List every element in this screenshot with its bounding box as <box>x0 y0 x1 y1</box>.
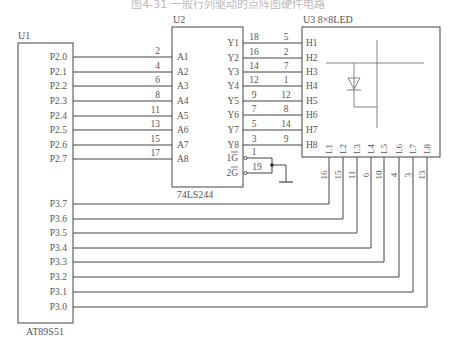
pin-label-l1: L1 <box>324 144 334 154</box>
pin-label-p3-2: P3.2 <box>50 272 67 282</box>
pin-label-l7: L7 <box>408 144 418 154</box>
pin-label-p3-7: P3.7 <box>50 199 67 209</box>
pin-label-h4: H4 <box>306 81 318 91</box>
pin-number: 4 <box>389 172 399 177</box>
pin-label-p2-0: P2.0 <box>50 52 67 62</box>
pin-number: 17 <box>151 148 161 158</box>
figure-caption: 图4-31 一般行列驱动的点阵图硬件电路 <box>131 0 324 11</box>
pin-label-l4: L4 <box>366 144 376 154</box>
pin-label-h5: H5 <box>306 96 318 106</box>
pin-label-p2-7: P2.7 <box>50 154 67 164</box>
pin-label-y3: Y3 <box>227 67 239 77</box>
pin-number: 9 <box>284 134 289 144</box>
pin-label-l6: L6 <box>394 144 404 154</box>
pin-label-a6: A6 <box>177 125 189 135</box>
pin-number: 12 <box>281 90 291 100</box>
pin-number: 1 <box>284 75 289 85</box>
pin-label-h3: H3 <box>306 67 318 77</box>
pin-label-a5: A5 <box>177 111 189 121</box>
pin-label-2g: 2G <box>226 168 238 178</box>
pin-label-y4: Y4 <box>227 81 239 91</box>
u2-a-pin-numbers: 2 4 6 8 11 13 15 17 <box>151 46 161 158</box>
pin-label-p2-1: P2.1 <box>50 67 67 77</box>
pin-number: 16 <box>319 170 329 180</box>
pin-label-a1: A1 <box>177 52 189 62</box>
pin-label-p2-2: P2.2 <box>50 81 67 91</box>
pin-number: 1 <box>252 147 257 157</box>
pin-number: 3 <box>252 134 257 144</box>
pin-label-p3-6: P3.6 <box>50 214 67 224</box>
pin-number: 6 <box>361 172 371 177</box>
pin-label-h6: H6 <box>306 110 318 120</box>
u3-ref-label: U3 8×8LED <box>303 14 353 25</box>
u1-p2-pin-labels: P2.0 P2.1 P2.2 P2.3 P2.4 P2.5 P2.6 P2.7 <box>50 52 67 164</box>
pin-number: 16 <box>249 47 259 57</box>
u1-part-label: AT89S51 <box>26 326 64 337</box>
schematic-canvas: 图4-31 一般行列驱动的点阵图硬件电路 U1 AT89S51 P2.0 P2.… <box>0 0 457 348</box>
u2-part-label: 74LS244 <box>177 189 214 200</box>
pin-label-p3-4: P3.4 <box>50 243 67 253</box>
pin-number: 13 <box>417 170 427 180</box>
pin-label-p3-3: P3.3 <box>50 257 67 267</box>
pin-label-p3-1: P3.1 <box>50 287 67 297</box>
pin-label-a7: A7 <box>177 140 189 150</box>
pin-label-a4: A4 <box>177 96 189 106</box>
pin-label-l5: L5 <box>379 144 389 154</box>
pin-number: 2 <box>155 46 160 56</box>
pin-label-h2: H2 <box>306 53 318 63</box>
led-diode-icon <box>326 40 424 128</box>
pin-number: 7 <box>284 61 289 71</box>
pin-number: 18 <box>249 32 259 42</box>
u1-p3-pin-labels: P3.7 P3.6 P3.5 P3.4 P3.3 P3.2 P3.1 P3.0 <box>50 199 67 312</box>
pin-number: 11 <box>151 105 160 115</box>
pin-number: 6 <box>155 75 160 85</box>
u3-body <box>302 27 440 157</box>
pin-label-p2-3: P2.3 <box>50 96 67 106</box>
pin-label-y5: Y5 <box>227 96 239 106</box>
pin-label-p3-5: P3.5 <box>50 228 67 238</box>
pin-label-h8: H8 <box>306 140 318 150</box>
pin-label-l8: L8 <box>422 144 432 154</box>
pin-label-a8: A8 <box>177 154 189 164</box>
pin-number: 15 <box>333 170 343 180</box>
pin-label-y2: Y2 <box>227 53 239 63</box>
u3-l-pin-labels: L1 L2 L3 L4 L5 L6 L7 L8 <box>324 144 432 154</box>
u2-ref-label: U2 <box>173 14 185 25</box>
pin-number: 8 <box>284 104 289 114</box>
u2-a-pin-labels: A1 A2 A3 A4 A5 A6 A7 A8 <box>177 52 189 164</box>
enable-ground-network <box>244 156 293 182</box>
inversion-bubble-1g <box>244 156 247 159</box>
inversion-bubble-2g <box>244 171 247 174</box>
pin-label-h7: H7 <box>306 125 318 135</box>
pin-number: 10 <box>374 170 384 180</box>
pin-number: 5 <box>252 119 257 129</box>
pin-label-1g: 1G <box>226 153 238 163</box>
pin-label-y8: Y8 <box>227 140 239 150</box>
pin-number: 14 <box>281 119 291 129</box>
pin-number: 12 <box>249 75 259 85</box>
u3-h-pin-numbers: 5 2 7 1 12 8 14 9 <box>281 32 291 144</box>
pin-number: 2 <box>284 47 289 57</box>
pin-label-l2: L2 <box>338 144 348 154</box>
u2-y-pin-numbers: 18 16 14 12 9 7 5 3 <box>249 32 259 144</box>
u3-l-pin-numbers: 16 15 11 6 10 4 3 13 <box>319 170 427 180</box>
u2-y-pin-labels: Y1 Y2 Y3 Y4 Y5 Y6 Y7 Y8 <box>227 38 239 150</box>
pin-label-l3: L3 <box>352 144 362 154</box>
u3-h-pin-labels: H1 H2 H3 H4 H5 H6 H7 H8 <box>306 38 318 150</box>
pin-label-p3-0: P3.0 <box>50 302 67 312</box>
pin-number: 4 <box>155 61 160 71</box>
u1-ref-label: U1 <box>18 30 30 41</box>
pin-label-p2-6: P2.6 <box>50 140 67 150</box>
pin-label-y1: Y1 <box>227 38 239 48</box>
pin-number: 14 <box>249 61 259 71</box>
pin-label-a3: A3 <box>177 81 189 91</box>
pin-label-y7: Y7 <box>227 125 239 135</box>
pin-label-p2-5: P2.5 <box>50 125 67 135</box>
pin-label-p2-4: P2.4 <box>50 111 67 121</box>
pin-number: 8 <box>155 90 160 100</box>
pin-number: 9 <box>252 90 257 100</box>
pin-number: 13 <box>151 119 161 129</box>
pin-number: 3 <box>403 172 413 177</box>
pin-number: 19 <box>252 162 262 172</box>
pin-number: 5 <box>284 32 289 42</box>
